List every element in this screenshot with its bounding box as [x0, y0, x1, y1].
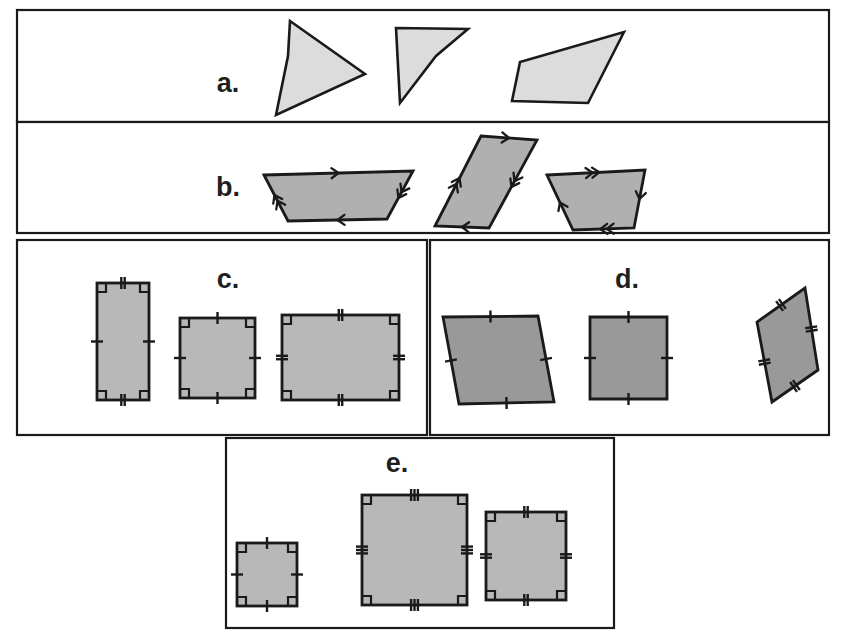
rectangle-tall	[97, 283, 149, 400]
square-large	[362, 495, 467, 605]
parallelogram-1	[264, 171, 413, 221]
rectangle-square-like	[180, 318, 255, 398]
panel-border-b	[17, 122, 829, 233]
panel-label-e: e.	[386, 448, 409, 478]
rectangle-wide	[282, 315, 399, 400]
panel-label-c: c.	[217, 264, 240, 294]
panel-label-a: a.	[217, 68, 240, 98]
panel-label-d: d.	[615, 264, 639, 294]
quadrilateral-classification-figure: a.b.c.d.e.	[0, 0, 846, 640]
diagram-canvas: a.b.c.d.e.	[0, 0, 846, 640]
rhombus-upright	[590, 317, 667, 399]
rhombus-slanted-left	[443, 316, 554, 404]
panel-label-b: b.	[216, 172, 240, 202]
square-medium	[486, 512, 566, 600]
